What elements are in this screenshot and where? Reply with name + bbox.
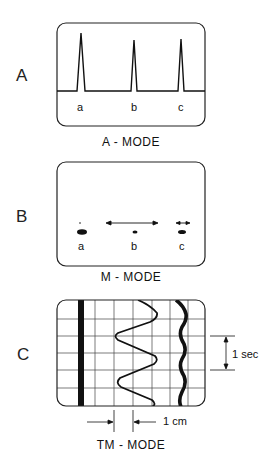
time-scale-label: 1 sec <box>232 348 258 360</box>
tm-mode-static-echo <box>78 300 84 406</box>
panel-c-label: C <box>17 345 29 365</box>
tm-mode-moving-echo <box>116 300 158 407</box>
peak-label-b: b <box>131 101 137 113</box>
peak-label-c: c <box>178 101 184 113</box>
tm-mode-grid <box>57 300 205 407</box>
dot-label-b: b <box>131 240 137 252</box>
m-mode-arrow-b <box>106 221 158 225</box>
peak-label-a: a <box>77 101 83 113</box>
m-mode-arrow-c <box>176 222 190 225</box>
dot-label-c: c <box>179 240 185 252</box>
dot-label-a: a <box>78 240 84 252</box>
m-mode-echo-c <box>178 230 186 234</box>
m-mode-small-dot <box>79 222 81 224</box>
m-mode-echo-a <box>77 229 87 235</box>
ultrasound-modes-diagram <box>0 0 269 466</box>
tm-mode-caption: TM - MODE <box>57 438 205 452</box>
a-mode-trace <box>57 33 205 91</box>
a-mode-caption: A - MODE <box>57 135 205 149</box>
distance-scale-marker <box>87 410 156 432</box>
panel-a-label: A <box>16 66 27 86</box>
distance-scale-label: 1 cm <box>163 415 187 427</box>
panel-b-label: B <box>16 207 27 227</box>
m-mode-echo-b <box>133 231 138 234</box>
m-mode-caption: M - MODE <box>57 270 205 284</box>
tm-mode-wavy-echo <box>176 300 186 407</box>
